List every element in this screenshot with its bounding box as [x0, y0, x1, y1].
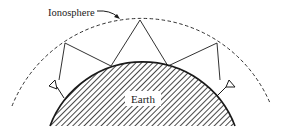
ionosphere-pointer-arrow-icon [97, 11, 118, 17]
ionosphere-label: Ionosphere [48, 7, 95, 18]
right-antenna-icon [217, 80, 235, 96]
earth-label: Earth [131, 93, 155, 105]
skywave-diagram: Earth Ionosphere [0, 0, 285, 138]
left-antenna-icon [49, 80, 64, 98]
